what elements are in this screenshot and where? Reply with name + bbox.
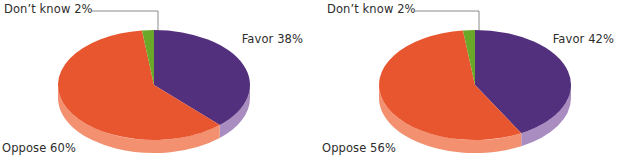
label-oppose-left: Oppose 60%	[2, 142, 76, 155]
pie-top-face-right	[379, 30, 571, 140]
label-dontknow-right: Don’t know 2%	[327, 3, 416, 16]
label-favor-right: Favor 42%	[553, 33, 614, 46]
label-favor-left: Favor 38%	[242, 33, 303, 46]
pie-chart-figure: Don’t know 2% Favor 38% Oppose 60% Don’t…	[0, 0, 619, 166]
label-oppose-right: Oppose 56%	[322, 142, 396, 155]
chart-panel-left: Don’t know 2% Favor 38% Oppose 60%	[0, 0, 309, 166]
label-dontknow-left: Don’t know 2%	[4, 3, 93, 16]
chart-panel-right: Don’t know 2% Favor 42% Oppose 56%	[310, 0, 619, 166]
pie-top-face-left	[58, 30, 250, 140]
